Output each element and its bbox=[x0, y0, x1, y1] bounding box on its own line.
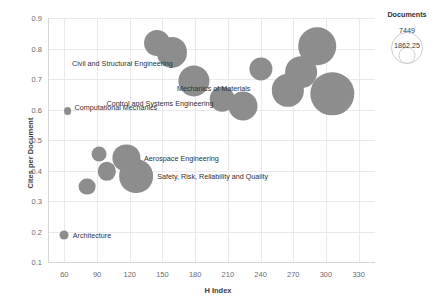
gridline-vertical bbox=[195, 18, 196, 262]
bubble-point[interactable] bbox=[60, 230, 69, 239]
x-tick-label: 300 bbox=[320, 270, 333, 279]
y-tick-label: 0.9 bbox=[32, 14, 42, 23]
legend-value: 7449 bbox=[399, 26, 415, 35]
y-tick-label: 0.1 bbox=[32, 258, 42, 267]
bubble-label: Civil and Structural Engineering bbox=[72, 58, 173, 67]
gridline-vertical bbox=[261, 18, 262, 262]
bubble-point[interactable] bbox=[249, 57, 272, 80]
bubble-point[interactable] bbox=[79, 178, 96, 195]
y-tick-label: 0.2 bbox=[32, 227, 42, 236]
bubble-label: Safety, Risk, Reliability and Quality bbox=[157, 172, 268, 181]
x-tick-label: 180 bbox=[189, 270, 202, 279]
bubble-point[interactable] bbox=[229, 91, 258, 120]
x-tick-label: 150 bbox=[156, 270, 169, 279]
size-legend: Documents 74491862.25 bbox=[378, 10, 436, 70]
y-axis-title-container: Cites per Document bbox=[14, 0, 26, 306]
x-tick-label: 240 bbox=[254, 270, 267, 279]
gridline-vertical bbox=[130, 18, 131, 262]
x-tick-label: 120 bbox=[123, 270, 136, 279]
gridline-vertical bbox=[293, 18, 294, 262]
bubble-label: Mechanics of Materials bbox=[177, 83, 251, 92]
y-tick-label: 0.8 bbox=[32, 44, 42, 53]
bubble-label: Control and Systems Engineering bbox=[106, 99, 213, 108]
legend-value: 1862.25 bbox=[394, 41, 420, 50]
bubble-label: Architecture bbox=[73, 230, 111, 239]
x-axis-line bbox=[48, 262, 375, 263]
gridline-vertical bbox=[359, 18, 360, 262]
x-tick-label: 90 bbox=[93, 270, 101, 279]
gridline-vertical bbox=[97, 18, 98, 262]
y-tick-label: 0.6 bbox=[32, 105, 42, 114]
plot-area: ArchitectureAerospace EngineeringSafety,… bbox=[48, 18, 375, 262]
x-tick-label: 330 bbox=[352, 270, 365, 279]
y-tick-label: 0.7 bbox=[32, 75, 42, 84]
x-axis-title: H Index bbox=[0, 286, 436, 295]
bubble-point[interactable] bbox=[92, 146, 107, 161]
x-tick-label: 210 bbox=[222, 270, 235, 279]
bubble-point[interactable] bbox=[98, 162, 116, 180]
gridline-vertical bbox=[64, 18, 65, 262]
x-tick-label: 270 bbox=[287, 270, 300, 279]
legend-title: Documents bbox=[378, 10, 436, 19]
bubble-chart: Cites per Document 0.90.80.70.60.50.40.3… bbox=[0, 0, 436, 306]
bubble-label: Aerospace Engineering bbox=[144, 154, 219, 163]
x-tick-label: 60 bbox=[60, 270, 68, 279]
y-axis-line bbox=[48, 18, 49, 262]
bubble-point[interactable] bbox=[64, 107, 72, 115]
y-tick-label: 0.4 bbox=[32, 166, 42, 175]
y-tick-label: 0.5 bbox=[32, 136, 42, 145]
gridline-vertical bbox=[228, 18, 229, 262]
bubble-point[interactable] bbox=[119, 159, 153, 193]
y-tick-label: 0.3 bbox=[32, 197, 42, 206]
bubble-point[interactable] bbox=[298, 27, 336, 65]
